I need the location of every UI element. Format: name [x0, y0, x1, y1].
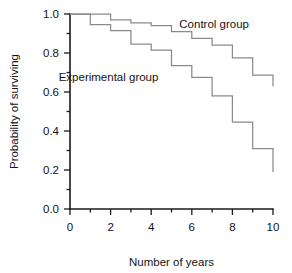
y-axis-tick-label: 0.4	[43, 125, 60, 137]
series-label-control-group: Control group	[179, 18, 249, 30]
x-axis-title: Number of years	[129, 256, 214, 268]
y-axis-ticks	[64, 14, 70, 209]
y-axis-tick-labels: 0.00.20.40.60.81.0	[43, 8, 60, 215]
x-axis-tick-labels: 0246810	[67, 221, 280, 233]
x-axis-tick-label: 6	[189, 221, 195, 233]
x-axis-tick-label: 10	[267, 221, 280, 233]
axes	[70, 14, 273, 209]
series-label-experimental-group: Experimental group	[59, 71, 159, 83]
x-axis-tick-label: 8	[229, 221, 235, 233]
data-series-group	[70, 14, 273, 172]
chart-canvas: 0.00.20.40.60.81.0 0246810 Control group…	[0, 0, 292, 273]
x-axis-ticks	[70, 209, 273, 215]
y-axis-tick-label: 1.0	[43, 8, 59, 20]
x-axis-tick-label: 2	[107, 221, 113, 233]
y-axis-tick-label: 0.6	[43, 86, 59, 98]
y-axis-title: Probability of surviving	[8, 54, 20, 169]
x-axis-tick-label: 4	[148, 221, 155, 233]
y-axis-tick-label: 0.2	[43, 164, 59, 176]
survival-curve-figure: 0.00.20.40.60.81.0 0246810 Control group…	[0, 0, 292, 273]
y-axis-tick-label: 0.0	[43, 203, 59, 215]
y-axis-tick-label: 0.8	[43, 47, 59, 59]
series-step-line-experimental	[70, 14, 273, 172]
x-axis-tick-label: 0	[67, 221, 73, 233]
